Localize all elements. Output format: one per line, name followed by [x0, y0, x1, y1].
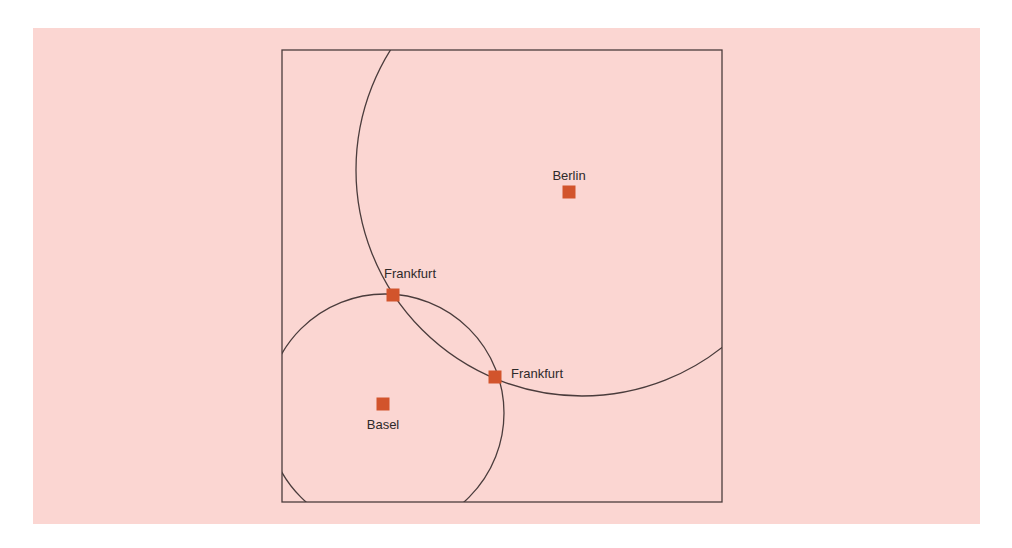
city-label-frankfurt-upper: Frankfurt	[384, 266, 436, 281]
city-marker-frankfurt-lower	[489, 371, 502, 384]
city-label-frankfurt-lower: Frankfurt	[511, 366, 563, 381]
city-marker-basel	[377, 398, 390, 411]
city-berlin: Berlin	[552, 168, 585, 199]
city-marker-berlin	[563, 186, 576, 199]
city-basel: Basel	[367, 398, 400, 433]
diagram-canvas: Berlin Frankfurt Frankfurt Basel	[0, 0, 1012, 548]
city-label-basel: Basel	[367, 417, 400, 432]
circles-group	[266, 0, 808, 532]
city-label-berlin: Berlin	[552, 168, 585, 183]
small-circle	[266, 294, 504, 532]
city-marker-frankfurt-upper	[387, 289, 400, 302]
diagram-svg: Berlin Frankfurt Frankfurt Basel	[0, 0, 1012, 548]
city-frankfurt-lower: Frankfurt	[489, 366, 564, 384]
large-circle	[356, 0, 808, 396]
